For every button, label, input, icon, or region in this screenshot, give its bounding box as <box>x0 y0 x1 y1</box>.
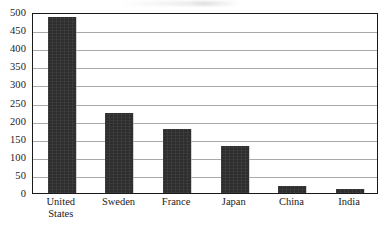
bars-group <box>33 14 377 193</box>
bar-slot <box>206 14 264 193</box>
y-axis-tick-labels: 500450400350300250200150100500 <box>0 8 30 194</box>
bar-slot <box>33 14 91 193</box>
x-category-label-line: Sweden <box>102 196 135 207</box>
y-tick-label: 100 <box>10 153 26 164</box>
scan-artifact <box>120 1 280 6</box>
y-tick-label: 500 <box>10 8 26 19</box>
x-category-label-line: United <box>47 196 76 207</box>
y-tick-label: 200 <box>10 116 26 127</box>
x-category-label-line: States <box>47 208 76 220</box>
y-tick-label: 150 <box>10 134 26 145</box>
bar <box>163 129 191 193</box>
x-category-label-line: China <box>279 196 304 207</box>
y-tick-label: 400 <box>10 44 26 55</box>
bar-slot <box>148 14 206 193</box>
bar-chart-figure: 500450400350300250200150100500 UnitedSta… <box>0 0 389 232</box>
bar <box>221 146 249 193</box>
bar <box>278 186 306 193</box>
x-category-label: Japan <box>222 196 246 208</box>
plot-area <box>32 13 378 194</box>
x-category-label-line: Japan <box>222 196 246 207</box>
x-axis-category-labels: UnitedStatesSwedenFranceJapanChinaIndia <box>32 196 378 230</box>
x-category-label: France <box>162 196 191 208</box>
x-category-label: Sweden <box>102 196 135 208</box>
x-category-label: UnitedStates <box>47 196 76 219</box>
bar <box>105 113 133 193</box>
bar <box>336 189 364 193</box>
y-tick-label: 50 <box>15 171 26 182</box>
x-category-label-line: France <box>162 196 191 207</box>
x-category-label: China <box>279 196 304 208</box>
x-category-label-line: India <box>338 196 360 207</box>
y-tick-label: 300 <box>10 80 26 91</box>
y-tick-label: 0 <box>21 189 26 200</box>
bar-slot <box>91 14 149 193</box>
x-category-label: India <box>338 196 360 208</box>
bar <box>48 17 76 193</box>
y-tick-label: 450 <box>10 26 26 37</box>
y-tick-label: 250 <box>10 98 26 109</box>
bar-slot <box>264 14 322 193</box>
y-tick-label: 350 <box>10 62 26 73</box>
bar-slot <box>321 14 379 193</box>
